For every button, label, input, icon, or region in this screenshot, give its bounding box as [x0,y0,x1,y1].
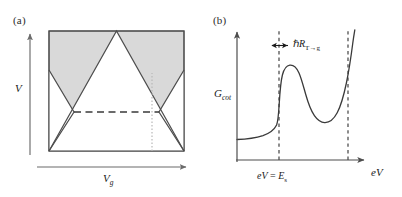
panel-a-x-axis-label-base: V [103,172,110,184]
panel-b-y-axis-label-sub: cot [222,93,231,102]
panel-b-x-axis-label: eV [371,166,383,178]
figure-container: (a) [0,0,402,197]
panel-a-x-axis-label-sub: g [110,178,114,187]
threshold-label-equals: = [268,170,279,181]
panel-b: (b) [201,0,402,197]
threshold-label-lhs: eV [257,170,268,181]
rate-subscript: T→g [305,44,320,52]
panel-a-graphic [0,0,201,197]
panel-a: (a) [0,0,201,197]
panel-a-y-axis-label: V [15,82,22,94]
panel-a-x-axis-label: Vg [103,172,113,187]
panel-b-y-axis-label-base: G [214,87,222,99]
panel-b-y-axis-label: Gcot [214,87,231,102]
threshold-label-rhs-sub: s [284,176,287,184]
threshold-label: eV = Es [257,170,287,184]
linewidth-annotation: ℏRT→g [293,38,320,52]
